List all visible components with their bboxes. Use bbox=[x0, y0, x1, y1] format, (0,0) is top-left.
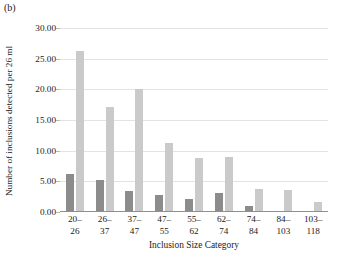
y-axis-tick-label: 10.00 bbox=[35, 146, 56, 156]
bar bbox=[165, 143, 173, 212]
bar bbox=[195, 158, 203, 212]
gridline bbox=[60, 212, 328, 213]
bar bbox=[66, 174, 74, 212]
bar-group bbox=[149, 28, 179, 212]
bar bbox=[76, 51, 84, 212]
x-axis-tick-label: 103–118 bbox=[298, 214, 328, 237]
x-axis-title: Inclusion Size Category bbox=[60, 240, 328, 250]
y-axis-tick-label: 5.00 bbox=[40, 176, 56, 186]
x-axis-tick-label-line2: 55 bbox=[149, 226, 179, 238]
y-axis-tick-label: 25.00 bbox=[35, 54, 56, 64]
bar bbox=[284, 190, 292, 212]
y-axis-tick-label: 15.00 bbox=[35, 115, 56, 125]
x-axis-tick-label-line2: 26 bbox=[60, 226, 90, 238]
x-axis-tick-label-line1: 37– bbox=[120, 214, 150, 226]
x-axis-tick-label-line2: 37 bbox=[90, 226, 120, 238]
bar-group bbox=[209, 28, 239, 212]
panel-label: (b) bbox=[4, 2, 16, 14]
bar-group bbox=[60, 28, 90, 212]
y-axis-title: Number of inclusions detected per 26 ml bbox=[0, 30, 18, 212]
bar bbox=[215, 193, 223, 212]
x-axis-tick-label-line1: 55– bbox=[179, 214, 209, 226]
figure-panel-b: (b) Number of inclusions detected per 26… bbox=[0, 0, 337, 257]
x-axis-tick-label-line1: 26– bbox=[90, 214, 120, 226]
bar bbox=[125, 191, 133, 212]
y-axis-tick-label: 0.00 bbox=[40, 207, 56, 217]
x-axis-tick-label-line1: 74– bbox=[239, 214, 269, 226]
x-axis-tick-label: 55–62 bbox=[179, 214, 209, 237]
bar bbox=[255, 189, 263, 212]
x-axis-tick-label: 62–74 bbox=[209, 214, 239, 237]
x-axis-tick-label: 74–84 bbox=[239, 214, 269, 237]
x-axis-tick-labels: 20–2626–3737–4747–5555–6262–7474–8484–10… bbox=[60, 214, 328, 237]
x-axis-tick-label-line2: 47 bbox=[120, 226, 150, 238]
bar-group bbox=[90, 28, 120, 212]
x-axis-tick-label-line1: 47– bbox=[149, 214, 179, 226]
x-axis-tick-label-line1: 84– bbox=[268, 214, 298, 226]
y-axis-tick-mark bbox=[56, 212, 60, 213]
x-axis-tick-label-line1: 62– bbox=[209, 214, 239, 226]
plot-area: 0.005.0010.0015.0020.0025.0030.00 bbox=[60, 28, 328, 212]
x-axis-tick-label-line1: 20– bbox=[60, 214, 90, 226]
bar-group bbox=[298, 28, 328, 212]
x-axis-tick-label: 47–55 bbox=[149, 214, 179, 237]
x-axis-line bbox=[60, 211, 328, 212]
bar-group bbox=[239, 28, 269, 212]
bar-groups bbox=[60, 28, 328, 212]
x-axis-tick-label-line1: 103– bbox=[298, 214, 328, 226]
bar bbox=[96, 180, 104, 212]
x-axis-tick-label: 20–26 bbox=[60, 214, 90, 237]
bar bbox=[106, 107, 114, 212]
y-axis-title-text: Number of inclusions detected per 26 ml bbox=[4, 46, 14, 196]
bar-group bbox=[120, 28, 150, 212]
x-axis-tick-label-line2: 62 bbox=[179, 226, 209, 238]
bar bbox=[225, 157, 233, 212]
y-axis-tick-label: 30.00 bbox=[35, 23, 56, 33]
bar bbox=[135, 89, 143, 212]
x-axis-tick-label: 26–37 bbox=[90, 214, 120, 237]
x-axis-tick-label-line2: 84 bbox=[239, 226, 269, 238]
bar-group bbox=[179, 28, 209, 212]
x-axis-tick-label-line2: 103 bbox=[268, 226, 298, 238]
bar bbox=[155, 195, 163, 212]
bar-group bbox=[268, 28, 298, 212]
x-axis-tick-label-line2: 118 bbox=[298, 226, 328, 238]
x-axis-tick-label: 84–103 bbox=[268, 214, 298, 237]
x-axis-tick-label-line2: 74 bbox=[209, 226, 239, 238]
y-axis-tick-label: 20.00 bbox=[35, 84, 56, 94]
x-axis-tick-label: 37–47 bbox=[120, 214, 150, 237]
